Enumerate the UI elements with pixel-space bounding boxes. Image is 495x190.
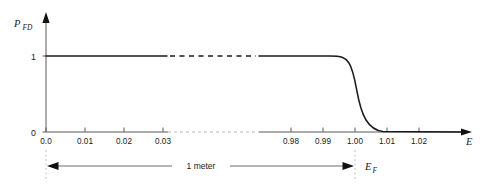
fermi-level-label-group: E F (364, 161, 378, 175)
x-tick-label-1.00: 1.00 (347, 137, 363, 146)
x-tick-label-1.01: 1.01 (379, 137, 395, 146)
x-tick-label-0.98: 0.98 (283, 137, 299, 146)
x-axis-title: E (465, 136, 473, 147)
plot-canvas: 1 0 P FD 0.0 0.01 0.02 0.03 (0, 0, 495, 190)
fermi-level-label: E (364, 161, 372, 172)
x-tick-label-0.0: 0.0 (40, 137, 52, 146)
x-tick-label-0.01: 0.01 (77, 137, 93, 146)
x-tick-label-0.02: 0.02 (116, 137, 132, 146)
dimension-arrow-right (343, 162, 355, 170)
x-ticks-left-group (46, 128, 163, 133)
y-axis-title-group: P FD (13, 18, 33, 32)
dimension-arrow-left (47, 162, 59, 170)
dimension-annotation-group: 1 meter (46, 150, 355, 182)
fermi-dirac-figure: 1 0 P FD 0.0 0.01 0.02 0.03 (0, 0, 495, 190)
dimension-label: 1 meter (187, 161, 216, 171)
y-axis-title-subscript: FD (22, 23, 34, 32)
y-tick-label-1: 1 (31, 52, 36, 62)
y-tick-label-0: 0 (31, 128, 36, 138)
x-tick-label-0.03: 0.03 (155, 137, 171, 146)
y-axis-title: P (13, 18, 21, 29)
y-axis-group (42, 12, 49, 132)
x-tick-label-0.99: 0.99 (315, 137, 331, 146)
y-axis-arrowhead (42, 12, 49, 23)
x-tick-label-1.02: 1.02 (411, 137, 427, 146)
fermi-level-label-subscript: F (372, 166, 378, 175)
fermi-dirac-curve-group (46, 56, 462, 132)
curve-sigmoid-right (259, 56, 462, 132)
